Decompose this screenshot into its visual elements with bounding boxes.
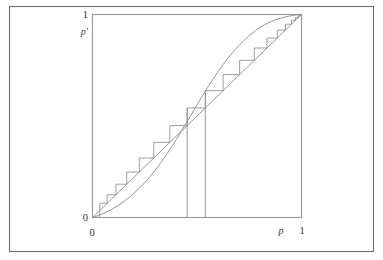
- y-axis-min-label: 0: [83, 212, 88, 223]
- x-axis-symbol-label: p: [278, 225, 284, 236]
- x-axis-max-label: 1: [299, 225, 304, 236]
- y-axis-max-label: 1: [83, 9, 88, 20]
- cobweb-figure: 1 p′ 0 0 p 1: [0, 0, 383, 260]
- outer-frame: [10, 7, 374, 252]
- y-axis-symbol-label: p′: [80, 26, 89, 37]
- x-axis-min-label: 0: [89, 227, 94, 238]
